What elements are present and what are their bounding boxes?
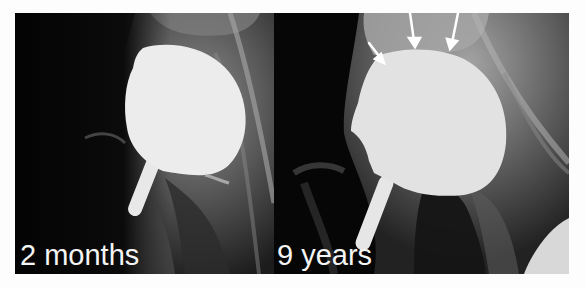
xray-figure: 2 months xyxy=(15,13,569,274)
xray-image-9-years xyxy=(274,13,569,274)
panel-label: 9 years xyxy=(277,241,372,270)
panel-label: 2 months xyxy=(20,241,139,270)
panel-9-years: 9 years xyxy=(274,13,569,274)
xray-image-2-months xyxy=(15,13,274,274)
panel-2-months: 2 months xyxy=(15,13,274,274)
